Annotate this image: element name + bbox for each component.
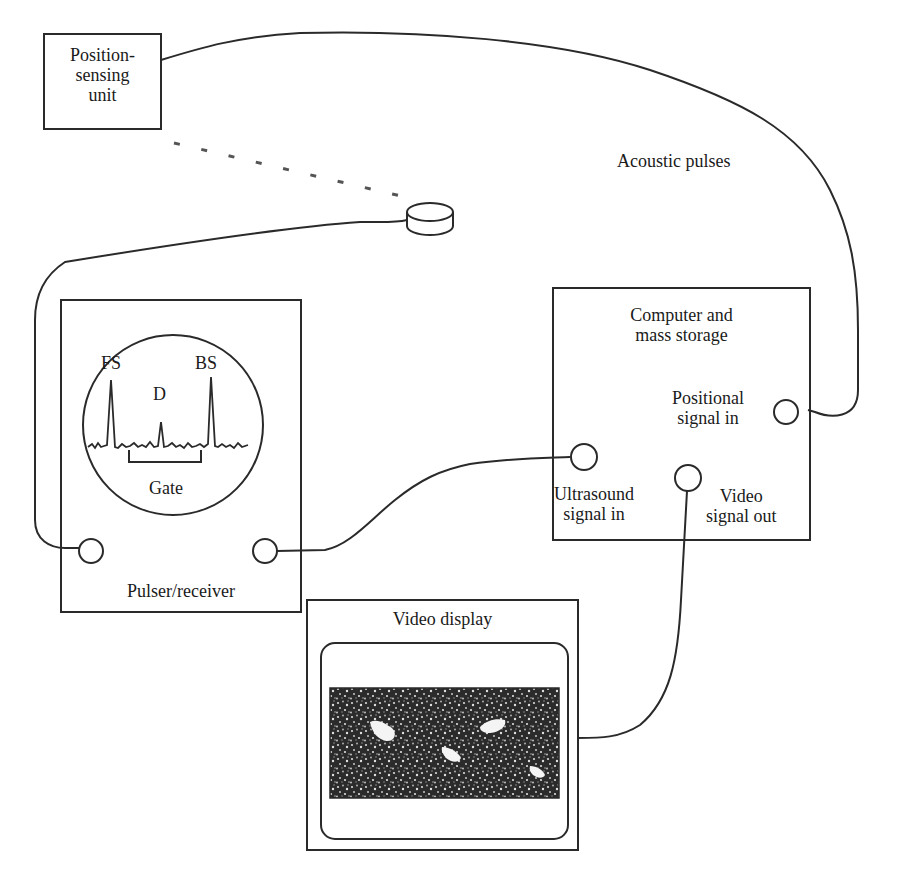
video-out-line2: signal out <box>706 506 777 526</box>
transducer-icon <box>407 203 453 235</box>
acoustic-pulses-label: Acoustic pulses <box>617 151 730 171</box>
diagram-canvas <box>0 0 901 874</box>
peak-d-label: D <box>153 384 166 404</box>
position-sensing-unit-label: Position- sensing unit <box>44 45 161 105</box>
ultrasound-line2: signal in <box>554 504 634 524</box>
acoustic-path-dashed <box>174 143 418 200</box>
peak-bs-label: BS <box>195 353 217 373</box>
ultrasound-line1: Ultrasound <box>554 484 634 504</box>
gate-bracket <box>129 450 201 462</box>
computer-label-line1: Computer and <box>553 305 810 325</box>
video-signal-out-label: Video signal out <box>706 486 777 526</box>
c-scan-image <box>330 688 559 798</box>
video-display-label: Video display <box>307 609 578 629</box>
a-scan-waveform <box>88 377 248 448</box>
transducer-cable <box>35 220 407 548</box>
positional-signal-port <box>774 400 798 424</box>
position-sensing-line2: sensing <box>44 65 161 85</box>
ultrasound-cable <box>277 457 570 551</box>
computer-label: Computer and mass storage <box>553 305 810 345</box>
position-sensing-line1: Position- <box>44 45 161 65</box>
peak-fs-label: FS <box>101 353 121 373</box>
video-out-line1: Video <box>706 486 777 506</box>
pulser-receiver-box <box>61 300 301 612</box>
pulser-receiver-label: Pulser/receiver <box>61 581 301 601</box>
video-cable <box>578 491 687 738</box>
ultrasound-signal-label: Ultrasound signal in <box>554 484 634 524</box>
video-signal-port <box>675 465 701 491</box>
position-sensing-line3: unit <box>44 85 161 105</box>
pulser-port-output <box>253 539 277 563</box>
computer-label-line2: mass storage <box>553 325 810 345</box>
positional-line2: signal in <box>672 408 744 428</box>
ultrasound-signal-port <box>571 444 597 470</box>
positional-signal-label: Positional signal in <box>672 388 744 428</box>
pulser-port-transducer <box>79 539 103 563</box>
gate-label: Gate <box>149 478 183 498</box>
positional-line1: Positional <box>672 388 744 408</box>
positional-cable <box>161 32 858 415</box>
